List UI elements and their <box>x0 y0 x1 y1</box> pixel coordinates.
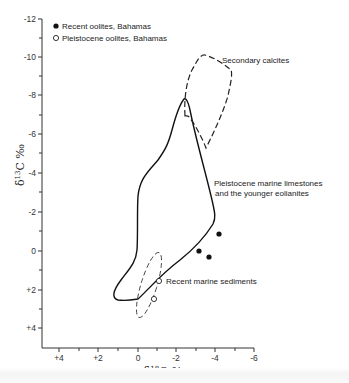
isotope-scatter-chart: -12 -10 -8 -6 -4 -2 0 +2 +4 δ13C ‰ +4 +2… <box>0 0 349 383</box>
svg-text:δ13C ‰: δ13C ‰ <box>14 144 27 186</box>
filled-circle-icon <box>53 23 58 28</box>
x-tick-label: +4 <box>54 353 64 363</box>
y-tick-label: -2 <box>28 207 36 217</box>
data-point <box>216 231 221 236</box>
open-circle-icon <box>53 35 58 40</box>
pleistocene-field-outline <box>114 99 215 301</box>
recent-marine-sediments-outline <box>131 250 166 320</box>
y-axis-title: δ13C ‰ <box>14 144 27 186</box>
y-tick-label: -6 <box>28 129 36 139</box>
scan-edge-band <box>0 368 349 383</box>
label-secondary-calcites: Secondary calcites <box>222 56 289 65</box>
x-tick-label: +2 <box>93 353 103 363</box>
y-tick-label: +4 <box>26 323 36 333</box>
data-point <box>196 248 201 253</box>
y-axis-sup: 13 <box>14 171 22 180</box>
secondary-calcites-outline <box>185 55 232 148</box>
y-tick-label: -4 <box>28 168 36 178</box>
series-pleistocene-oolites <box>151 278 161 301</box>
data-point <box>206 254 211 259</box>
x-tick-label: -4 <box>211 353 219 363</box>
series-recent-oolites <box>196 231 221 259</box>
legend: Recent oolites, Bahamas Pleistocene ooli… <box>53 22 167 43</box>
y-tick-label: 0 <box>31 246 36 256</box>
y-tick-label: -12 <box>24 14 37 24</box>
legend-label-pleistocene: Pleistocene oolites, Bahamas <box>62 34 167 43</box>
label-pleistocene-line2: and the younger eolianites <box>215 189 309 198</box>
data-point <box>151 296 156 301</box>
y-axis-rest: C ‰ <box>14 144 27 171</box>
y-tick-label: -8 <box>28 90 36 100</box>
y-tick-label: -10 <box>24 52 37 62</box>
x-tick-label: 0 <box>136 353 141 363</box>
label-recent-marine-sediments: Recent marine sediments <box>166 277 257 286</box>
data-point <box>156 278 161 283</box>
x-axis <box>42 348 254 352</box>
y-axis <box>38 19 42 348</box>
y-tick-labels: -12 -10 -8 -6 -4 -2 0 +2 +4 <box>24 14 37 333</box>
label-pleistocene-line1: Pleistocene marine limestones <box>214 179 323 188</box>
legend-label-recent: Recent oolites, Bahamas <box>62 22 151 31</box>
x-tick-label: -2 <box>172 353 180 363</box>
x-tick-label: -6 <box>250 353 258 363</box>
y-tick-label: +2 <box>26 285 36 295</box>
x-tick-labels: +4 +2 0 -2 -4 -6 <box>54 353 258 363</box>
